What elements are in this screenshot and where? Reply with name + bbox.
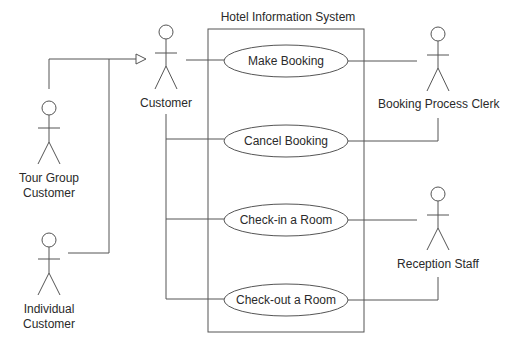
actor-clerk-label: Booking Process Clerk [378, 97, 498, 112]
actor-tour-group-icon[interactable] [38, 101, 60, 164]
actor-customer-icon[interactable] [155, 25, 177, 89]
actor-individual-label-line2: Customer [4, 317, 94, 332]
actor-reception-icon[interactable] [427, 187, 449, 250]
actor-customer-label: Customer [126, 96, 206, 111]
actor-clerk-icon[interactable] [427, 27, 449, 91]
system-title: Hotel Information System [208, 10, 368, 25]
use-case-check-in-label: Check-in a Room [224, 213, 348, 227]
generalization-arrowhead-icon [136, 54, 146, 64]
actor-tour-group-label-line2: Customer [4, 186, 94, 201]
actor-tour-group-label-line1: Tour Group [4, 171, 94, 186]
actor-individual-icon[interactable] [38, 233, 60, 295]
use-case-cancel-booking-label: Cancel Booking [224, 134, 348, 148]
actor-reception-label: Reception Staff [388, 257, 488, 272]
generalization-connectors [49, 54, 146, 253]
actor-individual-label-line1: Individual [4, 302, 94, 317]
use-case-make-booking-label: Make Booking [224, 54, 348, 68]
use-case-check-out-label: Check-out a Room [224, 293, 348, 307]
